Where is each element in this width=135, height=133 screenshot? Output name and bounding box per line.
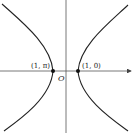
label-right-vertex: (1, 0): [82, 62, 101, 70]
vertex-point-right: [76, 69, 80, 73]
label-left-vertex: (1, π): [31, 62, 50, 70]
hyperbola-diagram: (1, π) (1, 0) O: [0, 0, 135, 133]
origin-label: O: [58, 74, 65, 83]
vertex-point-left: [51, 69, 55, 73]
